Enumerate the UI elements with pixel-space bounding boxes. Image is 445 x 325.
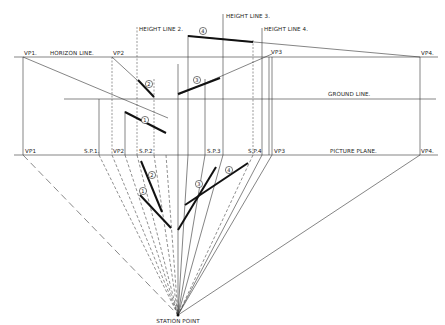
sp-line-e: [178, 155, 188, 315]
sp-line-sp3: [178, 155, 223, 315]
label-horizon-line: HORIZON LINE.: [50, 50, 94, 56]
element-4-plan: [185, 163, 248, 205]
sp-line-vp1: [23, 155, 178, 315]
sp-line-sp4: [178, 155, 253, 315]
label-pp-sp1: S.P.1.: [84, 148, 100, 154]
marker-3-upper: 3: [193, 76, 200, 83]
svg-text:1: 1: [141, 188, 144, 194]
label-horizon-vp4: VP4.: [421, 50, 434, 56]
label-station-point: STATION POINT: [156, 318, 200, 324]
label-height-line-2: HEIGHT LINE 2.: [139, 26, 183, 32]
sp-line-a: [125, 155, 178, 315]
perspective-drawing: 1 2 3 4 1 2 3 4 VP1. HORIZON LINE. VP2 V…: [0, 0, 445, 325]
label-pp-vp4: VP4.: [421, 148, 434, 154]
sp-line-vp2: [112, 155, 178, 315]
label-pp-sp3: S.P.3: [207, 148, 221, 154]
marker-2-plan: 2: [148, 171, 155, 178]
svg-text:2: 2: [150, 172, 153, 178]
station-point-marker: [177, 314, 180, 317]
label-horizon-vp1: VP1.: [24, 50, 37, 56]
svg-text:1: 1: [143, 117, 146, 123]
sp-line-g: [178, 155, 262, 315]
marker-4-plan: 4: [225, 166, 232, 173]
vp2-vanishing-line: [112, 57, 137, 80]
label-height-line-4: HEIGHT LINE 4.: [264, 26, 308, 32]
svg-text:4: 4: [201, 28, 204, 34]
label-pp-vp2: VP2: [113, 148, 124, 154]
sp-line-f: [178, 155, 205, 315]
svg-text:2: 2: [147, 81, 150, 87]
svg-text:3: 3: [195, 77, 198, 83]
label-pp-vp1: VP1: [25, 148, 36, 154]
marker-3-plan: 3: [195, 180, 202, 187]
label-height-line-3: HEIGHT LINE 3.: [226, 13, 270, 19]
marker-1-upper: 1: [141, 116, 148, 123]
element-4-elevation: [188, 36, 253, 42]
marker-2-upper: 2: [145, 80, 152, 87]
marker-1-plan: 1: [139, 187, 146, 194]
label-horizon-vp3: VP3: [271, 49, 282, 55]
label-pp-sp4: S.P.4: [248, 148, 262, 154]
element-3-plan: [178, 167, 216, 230]
sp-line-vp4: [178, 155, 420, 315]
label-picture-plane: PICTURE PLANE.: [330, 148, 377, 154]
element-1-plan: [140, 195, 171, 228]
label-pp-sp2: S.P.2: [139, 148, 153, 154]
label-ground-line: GROUND LINE.: [328, 91, 371, 97]
label-horizon-vp2: VP2: [113, 50, 124, 56]
svg-text:4: 4: [227, 167, 230, 173]
label-pp-vp3: VP3: [274, 148, 285, 154]
marker-4-upper: 4: [199, 27, 206, 34]
svg-text:3: 3: [197, 181, 200, 187]
